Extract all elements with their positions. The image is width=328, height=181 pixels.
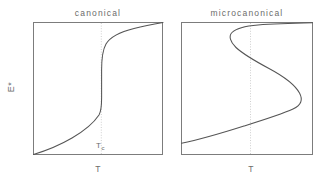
y-axis-label: E* [6, 62, 16, 112]
panel-title-microcanonical: microcanonical [181, 8, 313, 18]
x-axis-label-canonical: T [78, 164, 118, 174]
x-axis-label-microcanonical: T [231, 164, 271, 174]
panel-title-canonical: canonical [33, 8, 163, 18]
tc-annotation-subscript: c [101, 145, 104, 151]
plot-frame-microcanonical [181, 22, 313, 155]
figure-container: E* canonical microcanonical Tc T T [0, 0, 328, 181]
plot-frame-canonical [33, 22, 163, 155]
tc-annotation: Tc [96, 141, 105, 150]
